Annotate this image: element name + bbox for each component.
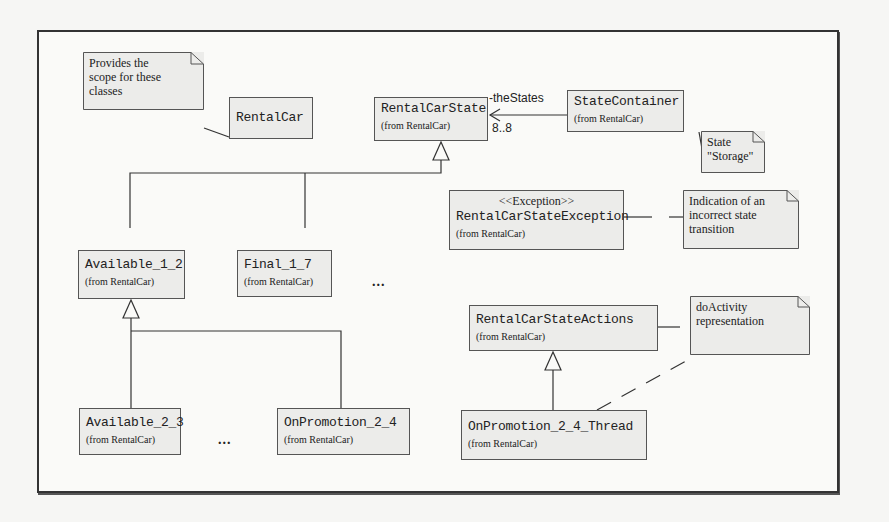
- class-package: (from RentalCar): [456, 228, 617, 239]
- class-package: (from RentalCar): [284, 434, 403, 445]
- class-final17[interactable]: Final_1_7 (from RentalCar): [237, 250, 332, 297]
- class-available12[interactable]: Available_1_2 (from RentalCar): [78, 250, 185, 299]
- note-doactivity: doActivity representation: [690, 296, 810, 355]
- class-rentalcarstateactions[interactable]: RentalCarStateActions (from RentalCar): [469, 305, 658, 351]
- note-storage-text: State "Storage": [707, 135, 753, 163]
- class-package: (from RentalCar): [86, 434, 174, 445]
- note-scope: Provides the scope for these classes: [83, 52, 204, 110]
- class-name: Available_2_3: [86, 415, 174, 430]
- class-name: Final_1_7: [244, 257, 325, 272]
- class-package: (from RentalCar): [381, 120, 481, 131]
- class-available23[interactable]: Available_2_3 (from RentalCar): [79, 408, 181, 455]
- class-rentalcarstateexception[interactable]: <<Exception>> RentalCarStateException (f…: [449, 190, 624, 250]
- class-package: (from RentalCar): [85, 276, 178, 287]
- class-name: OnPromotion_2_4: [284, 415, 403, 430]
- note-storage: State "Storage": [701, 131, 765, 173]
- more-states-ellipsis: ...: [372, 274, 386, 290]
- class-name: RentalCarStateActions: [476, 312, 651, 327]
- association-multiplicity: 8..8: [492, 121, 512, 135]
- note-doactivity-text: doActivity representation: [696, 300, 764, 328]
- class-package: (from RentalCar): [476, 331, 651, 342]
- class-onpromotion24thread[interactable]: OnPromotion_2_4_Thread (from RentalCar): [461, 410, 647, 460]
- association-role: -theStates: [489, 91, 544, 105]
- class-onpromotion24[interactable]: OnPromotion_2_4 (from RentalCar): [277, 408, 410, 455]
- class-rentalcarstate[interactable]: RentalCarState (from RentalCar): [374, 97, 488, 141]
- class-name: RentalCarState: [381, 101, 481, 116]
- note-exception-text: Indication of an incorrect state transit…: [689, 194, 765, 236]
- class-name: Available_1_2: [85, 257, 178, 272]
- class-package: (from RentalCar): [244, 276, 325, 287]
- class-name: RentalCar: [236, 110, 306, 125]
- more-substates-ellipsis: ...: [218, 432, 232, 448]
- class-rentalcar[interactable]: RentalCar: [229, 97, 313, 139]
- class-name: OnPromotion_2_4_Thread: [468, 419, 640, 434]
- class-package: (from RentalCar): [468, 438, 640, 449]
- note-exception: Indication of an incorrect state transit…: [683, 190, 799, 249]
- class-statecontainer[interactable]: StateContainer (from RentalCar): [567, 90, 684, 132]
- class-package: (from RentalCar): [574, 113, 677, 124]
- class-stereotype: <<Exception>>: [456, 194, 617, 209]
- note-scope-text: Provides the scope for these classes: [89, 56, 161, 98]
- class-name: StateContainer: [574, 94, 677, 109]
- class-name: RentalCarStateException: [456, 209, 617, 224]
